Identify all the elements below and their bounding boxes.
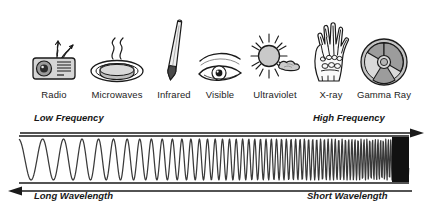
radio-icon [28,15,80,87]
electromagnetic-spectrum-diagram: Radio Microwaves [0,0,432,217]
radiation-icon [359,15,409,87]
wave-panel [0,134,432,186]
wave-graphic [0,134,432,186]
spectrum-band-infrared: Infrared [154,0,194,100]
spectrum-band-xray: X-ray [308,0,354,100]
spectrum-band-label: Radio [41,89,66,100]
frequency-high-label: High Frequency [313,112,385,123]
sun-cloud-icon [244,15,306,87]
spectrum-band-label: Ultraviolet [253,89,296,100]
xray-hand-icon [308,15,354,87]
microwave-icon [88,15,146,87]
wavelength-long-label: Long Wavelength [34,190,113,201]
thermometer-icon [154,15,194,87]
spectrum-band-label: Infrared [157,89,191,100]
spectrum-band-label: Gamma Ray [357,89,411,100]
spectrum-band-label: Microwaves [91,89,142,100]
spectrum-band-radio: Radio [28,0,80,100]
spectrum-band-ultraviolet: Ultraviolet [244,0,306,100]
spectrum-band-gamma-ray: Gamma Ray [359,0,409,100]
spectrum-band-label: Visible [206,89,235,100]
frequency-low-label: Low Frequency [34,112,104,123]
spectrum-band-label: X-ray [319,89,342,100]
spectrum-band-visible: Visible [196,0,244,100]
spectrum-band-row: Radio Microwaves [0,0,432,100]
wavelength-short-label: Short Wavelength [307,190,388,201]
spectrum-band-microwaves: Microwaves [88,0,146,100]
eye-icon [196,15,244,87]
